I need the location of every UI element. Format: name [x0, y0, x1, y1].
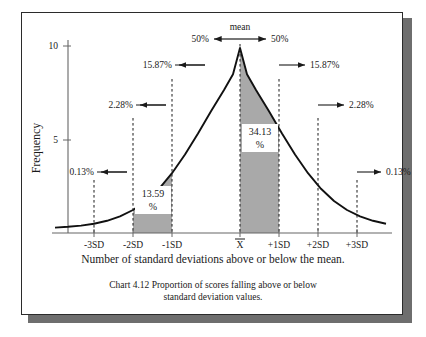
callout-label-right-50: 50%: [271, 34, 289, 44]
x-tick-label-+3sd: +3SD: [346, 240, 368, 250]
shaded-band-left: [55, 48, 386, 233]
callout-label-right-15-87: 15.87%: [310, 60, 339, 70]
x-tick-label--3sd: -3SD: [84, 240, 104, 250]
callout-label-right-0-13: 0.13%: [386, 167, 411, 177]
callout-left-2-28: 2.28%: [108, 100, 166, 110]
callout-label-left-50: 50%: [192, 34, 210, 44]
x-tick-label-mean: X: [237, 240, 244, 250]
callout-label-left-2-28: 2.28%: [108, 100, 133, 110]
band-label-box-right: 34.13 %: [242, 124, 278, 152]
band-label-left-percent: %: [149, 201, 157, 212]
y-tick-label-5: 5: [53, 135, 58, 145]
band-label-right-value: 34.13: [249, 126, 272, 137]
figure-stage: 10 5 Frequency -3SD -2SD -1: [0, 0, 426, 337]
x-tick-label-+2sd: +2SD: [307, 240, 329, 250]
normal-distribution-chart: 10 5 Frequency -3SD -2SD -1: [0, 0, 426, 337]
mean-label: mean: [230, 22, 251, 32]
callout-right-15-87: 15.87%: [279, 60, 339, 70]
x-axis-title: Number of standard deviations above or b…: [81, 253, 345, 265]
y-tick-label-10: 10: [49, 41, 59, 51]
y-axis-title: Frequency: [29, 123, 43, 174]
callout-left-15-87: 15.87%: [143, 60, 205, 70]
x-tick-label-mean-group: X: [235, 239, 245, 250]
bell-curve: [55, 48, 386, 228]
callout-right-2-28: 2.28%: [318, 100, 374, 110]
callout-right-0-13: 0.13%: [357, 167, 411, 177]
band-label-left-value: 13.59: [142, 188, 165, 199]
chart-caption-line-2: standard deviation values.: [164, 292, 263, 302]
x-tick-label--2sd: -2SD: [123, 240, 143, 250]
x-tick-label-+1sd: +1SD: [268, 240, 290, 250]
callout-left-0-13: 0.13%: [69, 167, 127, 177]
callout-label-left-15-87: 15.87%: [143, 60, 172, 70]
shaded-band-right: [55, 48, 386, 233]
callout-label-right-2-28: 2.28%: [349, 100, 374, 110]
x-tick-label--1sd: -1SD: [162, 240, 182, 250]
band-label-right-percent: %: [256, 139, 264, 150]
callout-label-left-0-13: 0.13%: [69, 167, 94, 177]
band-label-box-left: 13.59 %: [135, 186, 171, 214]
chart-caption-line-1: Chart 4.12 Proportion of scores falling …: [109, 280, 317, 290]
